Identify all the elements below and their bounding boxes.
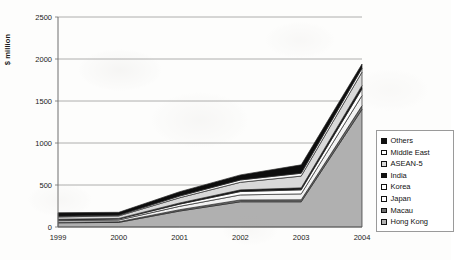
- legend-item-label: India: [391, 172, 407, 180]
- legend-item-label: Hong Kong: [391, 218, 429, 226]
- x-tick-label-2004: 2004: [354, 233, 371, 242]
- legend-swatch-icon: [381, 196, 387, 202]
- legend-item-asean-5: ASEAN-5: [381, 158, 450, 170]
- y-tick-label-500: 500: [39, 181, 52, 190]
- y-tick-label-2500: 2500: [35, 13, 52, 22]
- x-tick-label-2003: 2003: [293, 233, 310, 242]
- y-tick-label-1000: 1000: [35, 139, 52, 148]
- x-tick-label-2001: 2001: [171, 233, 188, 242]
- x-axis-tick-labels: 199920002001200220032004: [50, 233, 371, 242]
- y-axis-tick-labels: 05001000150020002500: [35, 13, 58, 232]
- legend-item-label: Others: [391, 137, 414, 145]
- y-tick-label-1500: 1500: [35, 97, 52, 106]
- x-tick-label-2000: 2000: [110, 233, 127, 242]
- legend-item-label: Macau: [391, 207, 414, 215]
- legend-item-label: Korea: [391, 183, 411, 191]
- x-tick-label-1999: 1999: [50, 233, 67, 242]
- legend-item-japan: Japan: [381, 193, 450, 205]
- legend-item-india: India: [381, 170, 450, 182]
- legend-item-others: Others: [381, 135, 450, 147]
- y-tick-label-0: 0: [48, 223, 52, 232]
- area-series-group: [58, 64, 362, 227]
- legend-item-hong-kong: Hong Kong: [381, 216, 450, 228]
- legend-swatch-icon: [381, 208, 387, 214]
- legend-item-macau: Macau: [381, 205, 450, 217]
- legend-item-label: ASEAN-5: [391, 160, 423, 168]
- legend-item-korea: Korea: [381, 181, 450, 193]
- legend-item-label: Middle East: [391, 149, 430, 157]
- legend-item-label: Japan: [391, 195, 411, 203]
- y-tick-label-2000: 2000: [35, 55, 52, 64]
- legend-item-middle-east: Middle East: [381, 147, 450, 159]
- x-tick-label-2002: 2002: [232, 233, 249, 242]
- chart-legend: OthersMiddle EastASEAN-5IndiaKoreaJapanM…: [376, 130, 454, 232]
- legend-swatch-icon: [381, 219, 387, 225]
- legend-swatch-icon: [381, 150, 387, 156]
- legend-swatch-icon: [381, 138, 387, 144]
- legend-swatch-icon: [381, 173, 387, 179]
- legend-swatch-icon: [381, 161, 387, 167]
- legend-swatch-icon: [381, 184, 387, 190]
